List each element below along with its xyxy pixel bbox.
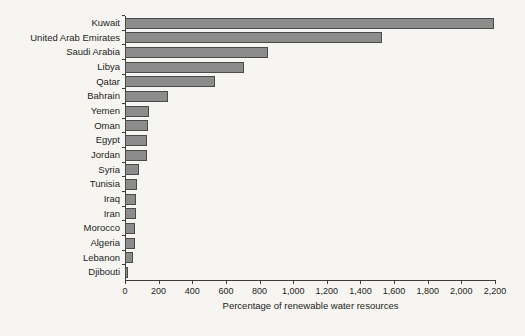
- bar-row: Saudi Arabia: [125, 45, 495, 60]
- y-axis-tick: [122, 118, 125, 119]
- bar-row: United Arab Emirates: [125, 31, 495, 46]
- bar-row: Iraq: [125, 192, 495, 207]
- x-axis-tick: [394, 280, 395, 284]
- bar-row: Yemen: [125, 104, 495, 119]
- x-axis-tick-label: 0: [122, 286, 127, 296]
- bar: [125, 179, 137, 190]
- y-axis-tick: [122, 147, 125, 148]
- category-label: United Arab Emirates: [30, 31, 120, 46]
- category-label: Jordan: [91, 148, 120, 163]
- x-axis-tick: [125, 280, 126, 284]
- y-axis-tick: [122, 30, 125, 31]
- category-label: Tunisia: [90, 177, 120, 192]
- bar: [125, 120, 148, 131]
- y-axis-tick: [122, 176, 125, 177]
- bar-row: Algeria: [125, 236, 495, 251]
- y-axis-tick: [122, 103, 125, 104]
- bar: [125, 223, 135, 234]
- chart-figure: KuwaitUnited Arab EmiratesSaudi ArabiaLi…: [0, 0, 525, 336]
- category-label: Iraq: [104, 192, 120, 207]
- x-axis-tick: [461, 280, 462, 284]
- bar: [125, 32, 382, 43]
- y-axis-tick: [122, 44, 125, 45]
- y-axis-tick: [122, 220, 125, 221]
- bar: [125, 252, 133, 263]
- bar: [125, 135, 147, 146]
- bar-row: Djibouti: [125, 265, 495, 280]
- y-axis-tick: [122, 264, 125, 265]
- category-label: Yemen: [91, 104, 120, 119]
- bar-row: Libya: [125, 60, 495, 75]
- x-axis-tick: [428, 280, 429, 284]
- bar-row: Egypt: [125, 133, 495, 148]
- y-axis-tick: [122, 132, 125, 133]
- x-axis-tick: [327, 280, 328, 284]
- x-axis-tick-label: 1,600: [383, 286, 406, 296]
- x-axis-tick-label: 2,200: [484, 286, 507, 296]
- category-label: Oman: [94, 119, 120, 134]
- x-axis-tick: [159, 280, 160, 284]
- x-axis-tick-label: 1,400: [349, 286, 372, 296]
- bar-row: Lebanon: [125, 251, 495, 266]
- bar: [125, 194, 136, 205]
- x-axis-tick-label: 1,000: [282, 286, 305, 296]
- x-axis-tick: [260, 280, 261, 284]
- category-label: Syria: [98, 163, 120, 178]
- bar: [125, 47, 268, 58]
- bar: [125, 91, 168, 102]
- x-axis-tick-label: 2,000: [450, 286, 473, 296]
- x-axis-tick: [360, 280, 361, 284]
- x-axis-tick-label: 1,800: [416, 286, 439, 296]
- y-axis-tick: [122, 74, 125, 75]
- x-axis-title: Percentage of renewable water resources: [125, 300, 496, 311]
- x-axis-tick-label: 600: [218, 286, 233, 296]
- bar-row: Morocco: [125, 221, 495, 236]
- category-label: Egypt: [96, 133, 120, 148]
- bar-row: Oman: [125, 119, 495, 134]
- y-axis-tick: [122, 206, 125, 207]
- category-label: Morocco: [84, 221, 120, 236]
- y-axis-tick: [122, 88, 125, 89]
- bar: [125, 267, 128, 278]
- category-label: Qatar: [96, 75, 120, 90]
- y-axis-tick: [122, 59, 125, 60]
- bar: [125, 62, 244, 73]
- y-axis-tick: [122, 235, 125, 236]
- y-axis-tick: [122, 250, 125, 251]
- category-label: Algeria: [90, 236, 120, 251]
- category-label: Djibouti: [88, 265, 120, 280]
- bar-row: Syria: [125, 163, 495, 178]
- y-axis-tick: [122, 191, 125, 192]
- bar: [125, 208, 136, 219]
- bar: [125, 238, 135, 249]
- x-axis-tick: [293, 280, 294, 284]
- bar-row: Iran: [125, 207, 495, 222]
- category-label: Iran: [104, 207, 120, 222]
- y-axis-tick: [122, 162, 125, 163]
- category-label: Lebanon: [83, 251, 120, 266]
- bar-row: Kuwait: [125, 16, 495, 31]
- x-axis-line: [125, 280, 496, 281]
- x-axis-tick-label: 200: [151, 286, 166, 296]
- bar-row: Tunisia: [125, 177, 495, 192]
- bar: [125, 18, 494, 29]
- bar-row: Qatar: [125, 75, 495, 90]
- category-label: Bahrain: [87, 89, 120, 104]
- category-label: Kuwait: [91, 16, 120, 31]
- x-axis-tick: [495, 280, 496, 284]
- bar: [125, 164, 139, 175]
- bar: [125, 106, 149, 117]
- y-axis-tick: [122, 15, 125, 16]
- x-axis-tick: [192, 280, 193, 284]
- x-axis-tick-label: 400: [185, 286, 200, 296]
- bar-row: Bahrain: [125, 89, 495, 104]
- bar: [125, 76, 215, 87]
- bar-row: Jordan: [125, 148, 495, 163]
- bar: [125, 150, 147, 161]
- category-label: Saudi Arabia: [66, 45, 120, 60]
- category-label: Libya: [97, 60, 120, 75]
- x-axis-tick-label: 1,200: [316, 286, 339, 296]
- x-axis-tick-label: 800: [252, 286, 267, 296]
- plot-area: KuwaitUnited Arab EmiratesSaudi ArabiaLi…: [125, 16, 495, 280]
- x-axis-tick: [226, 280, 227, 284]
